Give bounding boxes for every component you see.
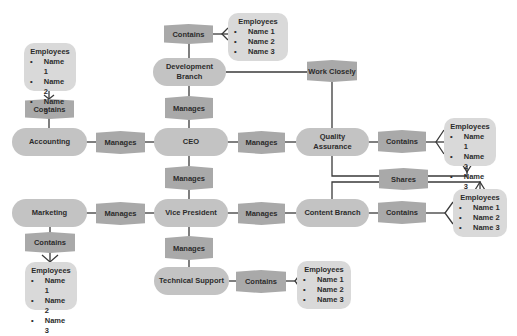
employee-name: Name 1 — [317, 275, 344, 285]
employee-list: •Name 1 •Name 2 •Name 3 — [303, 275, 345, 305]
employee-name: Name 3 — [248, 47, 275, 57]
entity-vice-president[interactable]: Vice President — [154, 199, 228, 227]
bullet-icon: • — [303, 295, 317, 305]
employee-name: Name 1 — [44, 57, 70, 77]
employee-name: Name 3 — [473, 223, 500, 233]
bullet-icon: • — [234, 37, 248, 47]
employee-name: Name 3 — [45, 316, 71, 336]
employee-item: •Name 2 — [234, 37, 282, 47]
relationship-work-closely[interactable]: Work Closely — [307, 60, 357, 82]
employee-item: •Name 1 — [303, 275, 345, 285]
employee-item: •Name 1 — [30, 57, 70, 77]
relationship-vp-content-manages[interactable]: Manages — [238, 202, 285, 225]
employee-item: •Name 2 — [31, 296, 71, 316]
entity-content-branch[interactable]: Content Branch — [296, 199, 369, 227]
employees-title: Employees — [234, 17, 282, 27]
bullet-icon: • — [459, 213, 473, 223]
employees-box-content-branch[interactable]: Employees •Name 1 •Name 2 •Name 3 — [453, 189, 507, 237]
employees-box-marketing[interactable]: Employees •Name 1 •Name 2 •Name 3 — [25, 262, 77, 310]
relationship-support-contains[interactable]: Contains — [236, 270, 286, 293]
employee-item: •Name 3 — [31, 316, 71, 336]
relationship-dev-manages[interactable]: Manages — [165, 96, 213, 120]
bullet-icon: • — [234, 27, 248, 37]
entity-accounting[interactable]: Accounting — [12, 128, 87, 156]
employee-item: •Name 1 — [31, 276, 71, 296]
employee-name: Name 3 — [44, 97, 70, 117]
employee-item: •Name 1 — [450, 132, 490, 152]
employees-title: Employees — [303, 265, 345, 275]
bullet-icon: • — [303, 285, 317, 295]
relationship-shares[interactable]: Shares — [379, 168, 428, 190]
entity-ceo[interactable]: CEO — [154, 128, 228, 156]
employee-name: Name 1 — [473, 203, 500, 213]
bullet-icon: • — [30, 97, 44, 117]
entity-technical-support[interactable]: Technical Support — [154, 267, 229, 295]
entity-quality-assurance[interactable]: Quality Assurance — [296, 128, 369, 156]
bullet-icon: • — [234, 47, 248, 57]
bullet-icon: • — [450, 152, 464, 172]
bullet-icon: • — [30, 77, 44, 97]
employee-name: Name 1 — [464, 132, 490, 152]
bullet-icon: • — [30, 57, 44, 77]
employee-name: Name 2 — [45, 296, 71, 316]
employee-name: Name 2 — [464, 152, 490, 172]
relationship-content-contains[interactable]: Contains — [378, 201, 426, 224]
relationship-vp-marketing-manages[interactable]: Manages — [96, 202, 145, 225]
entity-development-branch[interactable]: Development Branch — [153, 58, 226, 86]
relationship-ceo-accounting-manages[interactable]: Manages — [96, 131, 145, 154]
employee-item: •Name 2 — [459, 213, 501, 223]
relationship-marketing-contains[interactable]: Contains — [25, 232, 75, 253]
employees-title: Employees — [450, 122, 490, 132]
employees-title: Employees — [30, 47, 70, 57]
relationship-ceo-qa-manages[interactable]: Manages — [238, 131, 285, 154]
employees-box-technical-support[interactable]: Employees •Name 1 •Name 2 •Name 3 — [297, 261, 351, 309]
employee-name: Name 2 — [44, 77, 70, 97]
bullet-icon: • — [31, 316, 45, 336]
relationship-qa-contains[interactable]: Contains — [378, 130, 426, 153]
relationship-ceo-vp-manages[interactable]: Manages — [165, 166, 213, 190]
bullet-icon: • — [459, 203, 473, 213]
bullet-icon: • — [459, 223, 473, 233]
relationship-dev-contains[interactable]: Contains — [164, 24, 213, 44]
employee-item: •Name 1 — [234, 27, 282, 37]
employees-box-quality-assurance[interactable]: Employees •Name 1 •Name 2 •Name 3 — [444, 118, 496, 166]
bullet-icon: • — [31, 276, 45, 296]
employee-list: •Name 1 •Name 2 •Name 3 — [31, 276, 71, 336]
employees-box-accounting[interactable]: Employees •Name 1 •Name 2 •Name 3 — [24, 43, 76, 91]
employee-item: •Name 1 — [459, 203, 501, 213]
employee-item: •Name 3 — [30, 97, 70, 117]
relationship-vp-support-manages[interactable]: Manages — [165, 236, 213, 260]
bullet-icon: • — [31, 296, 45, 316]
employee-list: •Name 1 •Name 2 •Name 3 — [30, 57, 70, 117]
employee-item: •Name 3 — [234, 47, 282, 57]
employee-item: •Name 2 — [450, 152, 490, 172]
employee-name: Name 2 — [473, 213, 500, 223]
employee-list: •Name 1 •Name 2 •Name 3 — [459, 203, 501, 233]
employees-box-development[interactable]: Employees •Name 1 •Name 2 •Name 3 — [228, 13, 288, 61]
employee-item: •Name 3 — [459, 223, 501, 233]
employee-list: •Name 1 •Name 2 •Name 3 — [234, 27, 282, 57]
employee-item: •Name 2 — [30, 77, 70, 97]
entity-marketing[interactable]: Marketing — [12, 199, 87, 227]
employee-name: Name 3 — [317, 295, 344, 305]
employee-list: •Name 1 •Name 2 •Name 3 — [450, 132, 490, 192]
employees-title: Employees — [31, 266, 71, 276]
employee-item: •Name 3 — [303, 295, 345, 305]
employees-title: Employees — [459, 193, 501, 203]
bullet-icon: • — [450, 132, 464, 152]
employee-name: Name 2 — [248, 37, 275, 47]
employee-name: Name 1 — [248, 27, 275, 37]
bullet-icon: • — [303, 275, 317, 285]
employee-name: Name 1 — [45, 276, 71, 296]
employee-item: •Name 2 — [303, 285, 345, 295]
employee-name: Name 2 — [317, 285, 344, 295]
